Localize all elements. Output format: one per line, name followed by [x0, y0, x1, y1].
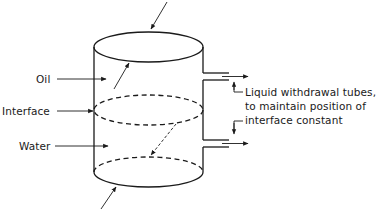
- oil-flow-arrow-icon: [114, 63, 129, 89]
- label-interface: Interface: [2, 105, 50, 117]
- water-flow-arrow-icon: [151, 124, 176, 155]
- label-water: Water: [19, 140, 51, 152]
- annotation-line-2: to maintain position of: [245, 100, 366, 112]
- top-inlet-arrow-icon: [151, 2, 167, 29]
- annotation-line-3: interface constant: [245, 114, 343, 126]
- interface-ellipse: [94, 95, 203, 125]
- annotation-bracket-lower: [234, 121, 243, 131]
- label-oil: Oil: [36, 73, 50, 85]
- annotation-bracket-upper: [234, 84, 243, 92]
- vessel-bottom-back-half: [94, 157, 203, 172]
- annotation-line-1: Liquid withdrawal tubes,: [245, 86, 376, 98]
- bottom-inlet-arrow-icon: [101, 187, 116, 209]
- vessel-top-ellipse: [94, 32, 203, 62]
- vessel-bottom-front-half: [94, 172, 203, 187]
